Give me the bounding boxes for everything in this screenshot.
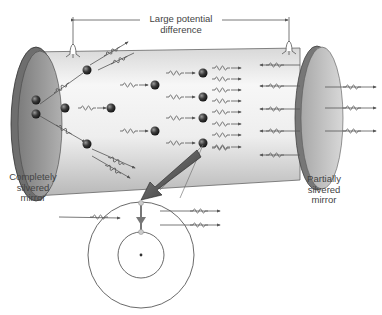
laser-diagram	[0, 0, 382, 315]
atom-energy-levels	[59, 201, 220, 309]
voltage-label: Large potential difference	[140, 14, 222, 35]
discharge-tube	[30, 48, 300, 196]
left-mirror-label: Completely silvered mirror	[4, 172, 62, 204]
right-mirror-label: Partially silvered mirror	[298, 174, 350, 206]
right-mirror	[295, 46, 343, 190]
